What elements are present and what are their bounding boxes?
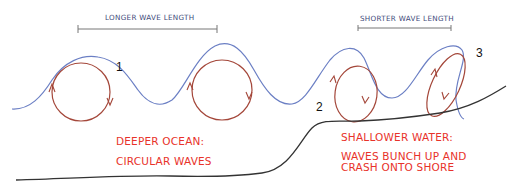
arrow-down-icon (442, 92, 449, 99)
orbit-shallow-2 (419, 48, 473, 121)
shorter-wavelength-scale: SHORTER WAVE LENGTH (358, 14, 454, 31)
svg-text:DEEPER OCEAN:: DEEPER OCEAN: (116, 135, 204, 147)
shallow-water-label: SHALLOWER WATER: WAVES BUNCH UP AND CRAS… (341, 131, 467, 173)
arrow-up-icon (431, 69, 437, 77)
svg-text:SHALLOWER WATER:: SHALLOWER WATER: (341, 131, 453, 143)
longer-wavelength-scale: LONGER WAVE LENGTH (78, 13, 217, 33)
svg-text:CRASH ONTO SHORE: CRASH ONTO SHORE (341, 161, 454, 173)
wave-surface-line (12, 44, 464, 119)
orbit-shallow-1 (330, 63, 381, 124)
arrow-up-icon (330, 76, 336, 83)
marker-2: 2 (316, 100, 323, 114)
wave-diagram: LONGER WAVE LENGTH SHORTER WAVE LENGTH (0, 0, 518, 184)
shorter-wavelength-label: SHORTER WAVE LENGTH (360, 14, 454, 23)
marker-3: 3 (476, 46, 483, 60)
deep-ocean-label: DEEPER OCEAN: CIRCULAR WAVES (116, 135, 212, 167)
orbit-deep-2 (187, 60, 252, 120)
arrow-down-icon (362, 96, 369, 103)
longer-wavelength-label: LONGER WAVE LENGTH (105, 13, 195, 22)
marker-1: 1 (116, 60, 123, 74)
svg-text:CIRCULAR WAVES: CIRCULAR WAVES (116, 155, 212, 167)
